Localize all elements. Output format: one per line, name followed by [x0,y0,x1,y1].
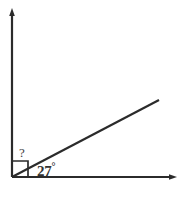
angle-diagram-figure: ? 27° [0,0,177,199]
known-angle-label: 27° [37,162,55,179]
known-angle-value: 27 [37,163,52,179]
geometry-canvas [0,0,177,199]
vertical-ray-arrowhead-icon [9,8,15,16]
degree-symbol: ° [52,161,56,172]
unknown-angle-label: ? [19,146,25,159]
diagonal-ray [12,100,159,177]
horizontal-ray-arrowhead-icon [169,174,177,179]
